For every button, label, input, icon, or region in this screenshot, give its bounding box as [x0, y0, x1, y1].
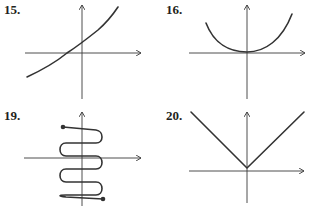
curve-zigzag — [60, 127, 103, 199]
graph-19 — [24, 112, 141, 206]
graphs-canvas — [0, 0, 316, 213]
curve-absolute-value — [191, 112, 304, 168]
curve-parabola — [206, 14, 292, 52]
curve-exponential — [27, 7, 118, 77]
endpoint-dot-end — [101, 197, 106, 202]
graph-16 — [189, 5, 305, 99]
graph-20 — [189, 112, 304, 203]
endpoint-dot-start — [61, 125, 66, 130]
graph-15 — [25, 5, 141, 99]
